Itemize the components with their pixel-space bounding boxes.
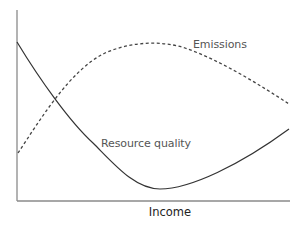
emissions-label: Emissions <box>193 38 247 51</box>
resource-quality-label: Resource quality <box>101 137 191 150</box>
chart-canvas <box>0 0 306 226</box>
resource-quality-curve <box>17 42 289 189</box>
x-axis-label: Income <box>149 205 191 219</box>
